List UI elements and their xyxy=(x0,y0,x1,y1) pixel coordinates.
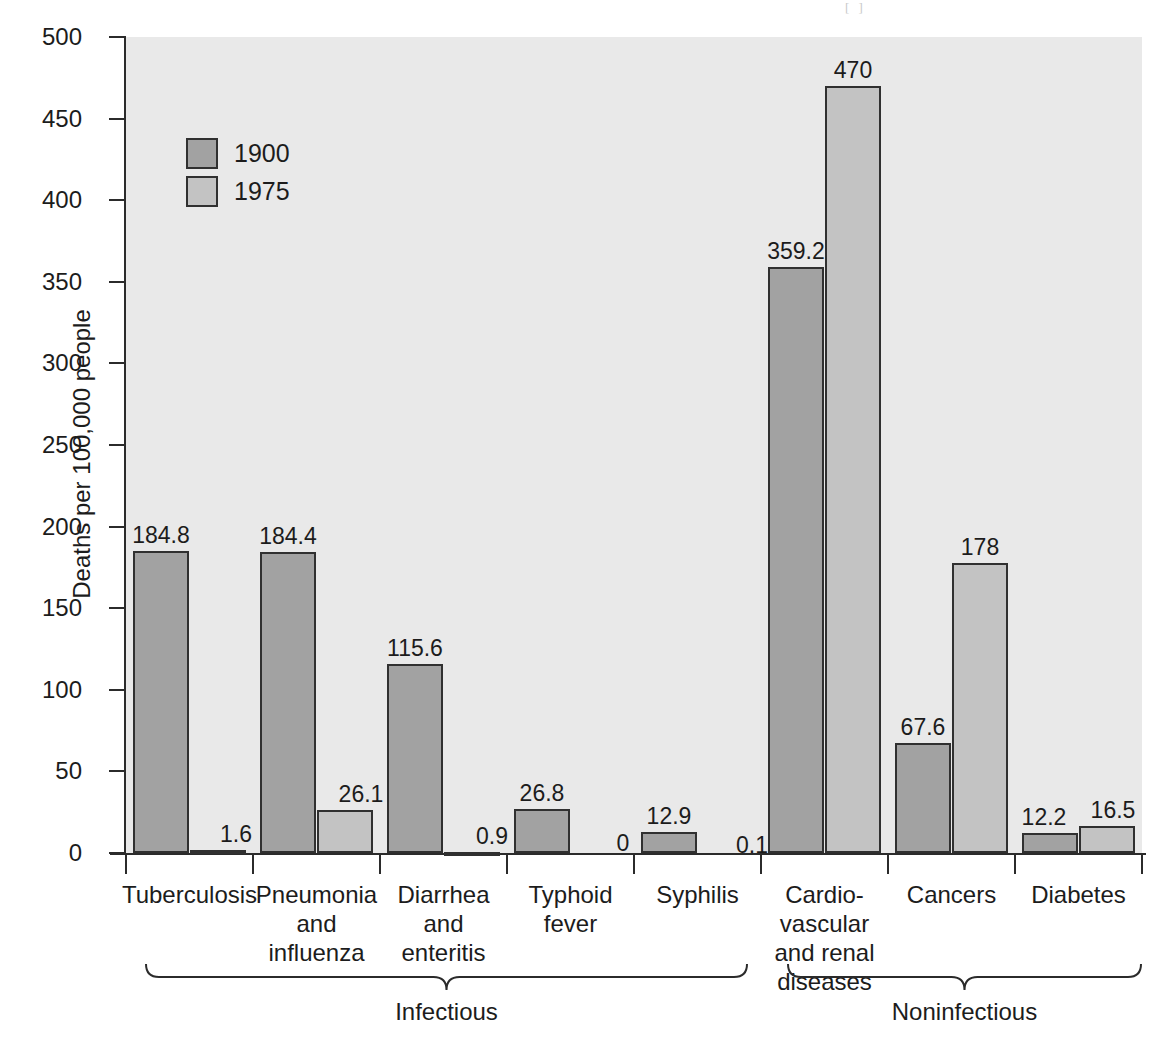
x-axis-tick xyxy=(379,855,381,874)
y-axis-tick xyxy=(109,118,124,120)
bar-1975-7[interactable] xyxy=(1079,826,1135,853)
bar-1900-7[interactable] xyxy=(1022,833,1078,853)
bar-value-label: 184.8 xyxy=(110,524,212,547)
bar-1975-0[interactable] xyxy=(190,850,246,854)
x-axis-tick xyxy=(1141,855,1143,874)
legend: 1900 1975 xyxy=(186,138,336,214)
x-axis-tick xyxy=(252,855,254,874)
y-axis-tick xyxy=(109,852,124,854)
bar-value-label: 470 xyxy=(802,59,904,82)
legend-item-1900[interactable]: 1900 xyxy=(186,138,336,176)
y-axis-line xyxy=(124,36,126,855)
bar-1975-1[interactable] xyxy=(317,810,373,853)
bar-value-label: 67.6 xyxy=(872,716,974,739)
bracket-icon xyxy=(787,963,1142,997)
bar-value-label: 16.5 xyxy=(1062,799,1164,822)
legend-swatch-1900 xyxy=(186,138,218,169)
y-axis-tick-label: 400 xyxy=(12,188,82,212)
x-axis-tick xyxy=(887,855,889,874)
y-axis-tick-label: 250 xyxy=(12,433,82,457)
bar-1975-2[interactable] xyxy=(444,852,500,856)
bar-value-label: 115.6 xyxy=(364,637,466,660)
y-axis-tick-label: 0 xyxy=(12,841,82,865)
x-axis-tick xyxy=(1014,855,1016,874)
x-axis-tick xyxy=(125,855,127,874)
y-axis-tick-label: 150 xyxy=(12,596,82,620)
group-bracket-noninfectious xyxy=(787,963,1142,997)
legend-swatch-1975 xyxy=(186,176,218,207)
y-axis-tick xyxy=(109,770,124,772)
x-axis-tick xyxy=(506,855,508,874)
y-axis-tick-label: 50 xyxy=(12,759,82,783)
bar-value-label: 0.9 xyxy=(441,825,543,848)
legend-item-1975[interactable]: 1975 xyxy=(186,176,336,214)
bar-chart-figure: [ ] Deaths per 100,000 people 0501001502… xyxy=(0,0,1176,1049)
bar-value-label: 1.6 xyxy=(185,823,287,846)
x-axis-tick xyxy=(633,855,635,874)
bar-value-label: 26.8 xyxy=(491,782,593,805)
legend-label-1900: 1900 xyxy=(234,140,290,167)
y-axis-tick-label: 200 xyxy=(12,515,82,539)
bar-value-label: 26.1 xyxy=(310,783,412,806)
y-axis-tick xyxy=(109,689,124,691)
scan-artifact-text: [ ] xyxy=(845,0,1060,14)
y-axis-tick-label: 500 xyxy=(12,25,82,49)
y-axis-tick xyxy=(109,362,124,364)
x-axis-category-label: Diabetes xyxy=(1001,880,1156,909)
y-axis-tick xyxy=(109,199,124,201)
group-bracket-label-noninfectious: Noninfectious xyxy=(815,1000,1115,1024)
bar-1900-1[interactable] xyxy=(260,552,316,853)
y-axis-tick-label: 350 xyxy=(12,270,82,294)
bar-1900-6[interactable] xyxy=(895,743,951,853)
bar-1900-2[interactable] xyxy=(387,664,443,853)
group-bracket-infectious xyxy=(145,963,748,997)
y-axis-tick xyxy=(109,281,124,283)
legend-label-1975: 1975 xyxy=(234,178,290,205)
bracket-icon xyxy=(145,963,748,997)
x-axis-tick xyxy=(760,855,762,874)
y-axis-tick xyxy=(109,36,124,38)
bar-value-label: 0.1 xyxy=(701,834,803,857)
y-axis-tick-label: 300 xyxy=(12,351,82,375)
y-axis-tick-label: 450 xyxy=(12,107,82,131)
bar-value-label: 12.9 xyxy=(618,805,720,828)
bar-value-label: 0 xyxy=(572,832,674,855)
y-axis-tick xyxy=(109,444,124,446)
bar-1900-0[interactable] xyxy=(133,551,189,853)
group-bracket-label-infectious: Infectious xyxy=(297,1000,597,1024)
bar-value-label: 178 xyxy=(929,536,1031,559)
bar-1900-5[interactable] xyxy=(768,267,824,853)
y-axis-tick-label: 100 xyxy=(12,678,82,702)
bar-value-label: 184.4 xyxy=(237,525,339,548)
y-axis-tick xyxy=(109,607,124,609)
bar-value-label: 359.2 xyxy=(745,240,847,263)
